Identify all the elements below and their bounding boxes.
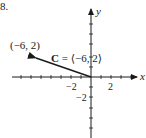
coordinate-plane: 8. −2 2 x xyxy=(0,0,146,138)
x-axis-label: x xyxy=(139,70,145,82)
vector-figure: 8. −2 2 x xyxy=(0,0,146,138)
y-axis: −2 y xyxy=(76,5,101,138)
point-label: (−6, 2) xyxy=(10,39,40,52)
vector-label: C = ⟨−6, 2⟩ xyxy=(51,52,102,64)
y-tick-label-neg2: −2 xyxy=(76,92,87,103)
point-marker xyxy=(28,54,32,58)
problem-number: 8. xyxy=(0,0,9,12)
vector-components: ⟨−6, 2⟩ xyxy=(71,52,102,64)
x-tick-label-neg2: −2 xyxy=(66,81,77,92)
vector-name: C xyxy=(51,52,59,64)
x-tick-label-2: 2 xyxy=(108,81,113,92)
y-axis-label: y xyxy=(95,5,101,17)
vector-equals: = xyxy=(59,52,71,64)
